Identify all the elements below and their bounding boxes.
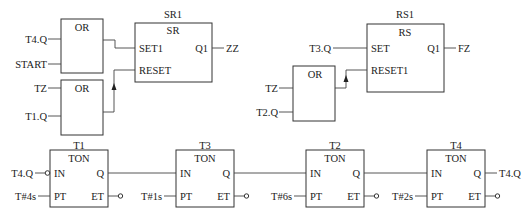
input-tz: TZ (265, 83, 278, 94)
sr1-q1-pin: Q1 (195, 43, 208, 54)
sr1-reset-pin: RESET (139, 65, 172, 76)
input-t1q: T1.Q (25, 111, 47, 122)
or-label: OR (75, 83, 90, 94)
input-tz: TZ (34, 83, 47, 94)
t3-instance-name: T3 (199, 140, 211, 151)
output-t4q: T4.Q (499, 168, 521, 179)
or-label: OR (308, 69, 323, 80)
output-fz: FZ (458, 43, 470, 54)
preset-time: T#6s (271, 191, 292, 202)
t3-in-pin: IN (180, 168, 191, 179)
sr1-type: SR (167, 25, 180, 36)
sr1-instance-name: SR1 (164, 9, 182, 20)
or-block-1: OR T4.Q START (15, 19, 103, 73)
timer-t3: T3 TON IN PT Q ET T#1s (141, 140, 249, 207)
preset-time: T#1s (141, 191, 162, 202)
rs1-set-pin: SET (371, 43, 390, 54)
rs1-q1-pin: Q1 (427, 43, 440, 54)
t1-pt-pin: PT (54, 191, 67, 202)
timer-t1: T1 TON IN PT Q ET T4.Q T#4s (11, 140, 123, 207)
input-t4q: T4.Q (11, 168, 33, 179)
output-zz: ZZ (226, 43, 239, 54)
rs1-type: RS (399, 27, 412, 38)
t2-et-pin: ET (347, 191, 360, 202)
open-terminal-icon (244, 194, 248, 198)
rising-edge-arrow-icon (344, 75, 349, 82)
input-start: START (15, 59, 47, 70)
t1-type: TON (68, 153, 90, 164)
t1-et-pin: ET (91, 191, 104, 202)
or-label: OR (75, 22, 90, 33)
open-terminal-icon (374, 194, 378, 198)
open-terminal-icon (118, 194, 122, 198)
t3-type: TON (194, 153, 216, 164)
t3-q-pin: Q (222, 168, 230, 179)
rs1-reset-pin: RESET1 (371, 65, 408, 76)
input-t4q: T4.Q (25, 34, 47, 45)
t3-et-pin: ET (217, 191, 230, 202)
negation-circle-icon (45, 171, 50, 176)
or-block-3: OR TZ T2.Q (256, 66, 335, 121)
rising-edge-arrow-icon (112, 83, 117, 90)
sr1-block: SR1 SR SET1 RESET Q1 ZZ (135, 9, 239, 82)
wire-or3-reset1 (335, 70, 367, 88)
input-t3q: T3.Q (309, 43, 331, 54)
t2-pt-pin: PT (310, 191, 323, 202)
t4-in-pin: IN (431, 168, 442, 179)
t4-q-pin: Q (473, 168, 481, 179)
t1-q-pin: Q (96, 168, 104, 179)
t4-et-pin: ET (468, 191, 481, 202)
fbd-diagram: OR T4.Q START OR TZ T1.Q SR1 SR SET1 RES… (0, 0, 532, 221)
t4-type: TON (445, 153, 467, 164)
t4-pt-pin: PT (431, 191, 444, 202)
open-terminal-icon (495, 194, 499, 198)
t3-pt-pin: PT (180, 191, 193, 202)
rs1-block: RS1 RS T3.Q SET RESET1 Q1 FZ (309, 9, 470, 92)
sr1-set-pin: SET1 (139, 43, 163, 54)
t1-in-pin: IN (54, 168, 65, 179)
t2-in-pin: IN (310, 168, 321, 179)
or-block-2: OR TZ T1.Q (25, 80, 103, 135)
timer-t4: T4 TON IN PT Q ET T#2s T4.Q (392, 140, 521, 207)
t4-instance-name: T4 (450, 140, 462, 151)
preset-time: T#4s (15, 191, 36, 202)
wire-or2-reset (103, 70, 135, 112)
t1-instance-name: T1 (73, 140, 85, 151)
t2-q-pin: Q (352, 168, 360, 179)
input-t2q: T2.Q (256, 107, 278, 118)
rs1-instance-name: RS1 (396, 9, 414, 20)
t2-type: TON (324, 153, 346, 164)
preset-time: T#2s (392, 191, 413, 202)
t2-instance-name: T2 (329, 140, 341, 151)
wire-or1-set1 (103, 40, 135, 48)
timer-t2: T2 TON IN PT Q ET T#6s (271, 140, 379, 207)
